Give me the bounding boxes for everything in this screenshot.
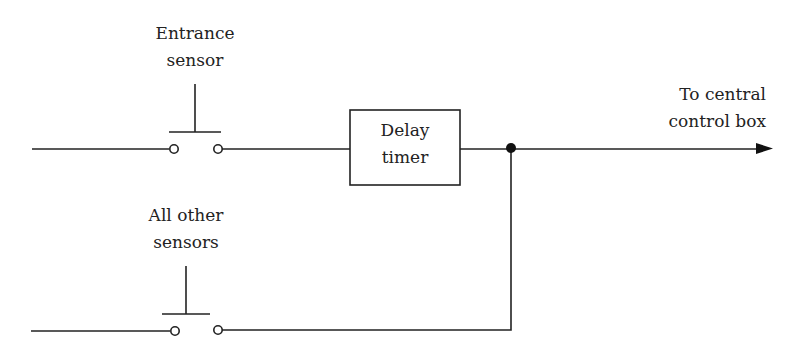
- schematic-drawing: [0, 0, 799, 357]
- entrance-sensor-label: Entrance sensor: [140, 20, 250, 74]
- delay-timer-label-line1: Delay: [355, 117, 455, 144]
- entrance-switch: [169, 84, 222, 153]
- circuit-diagram: Entrance sensor Delay timer To central c…: [0, 0, 799, 357]
- other-sensors-label: All other sensors: [131, 202, 241, 256]
- output-label-line2: control box: [620, 108, 766, 135]
- other-sensors-label-line2: sensors: [131, 229, 241, 256]
- other-sensors-label-line1: All other: [131, 202, 241, 229]
- output-label: To central control box: [620, 81, 766, 135]
- entrance-sensor-label-line2: sensor: [140, 47, 250, 74]
- junction-dot: [506, 143, 516, 153]
- other-sensors-switch: [162, 266, 222, 335]
- arrow-head-icon: [756, 143, 773, 154]
- output-label-line1: To central: [620, 81, 766, 108]
- delay-timer-label-line2: timer: [355, 144, 455, 171]
- wire-bottom-to-junction: [222, 149, 511, 330]
- entrance-sensor-label-line1: Entrance: [140, 20, 250, 47]
- delay-timer-label: Delay timer: [355, 117, 455, 171]
